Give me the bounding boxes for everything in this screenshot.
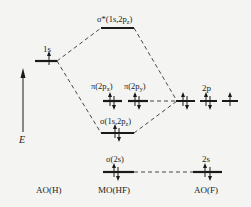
h1s-to-sigma (57, 61, 101, 133)
energy-axis-label: E (18, 134, 25, 145)
level-pi: π(2px) π(2py) (91, 81, 148, 110)
sigma-star-label: σ*(1s,2pz) (97, 14, 133, 25)
correlation-lines (57, 28, 193, 172)
column-label-ao-f: AO(F) (194, 185, 218, 195)
f-2p-label: 2p (202, 83, 212, 93)
f-2s-label: 2s (202, 154, 211, 164)
energy-axis: E (18, 68, 26, 145)
level-sigma-star: σ*(1s,2pz) (97, 14, 134, 28)
column-label-ao-h: AO(H) (36, 185, 62, 195)
pi-x-label: π(2px) (91, 81, 113, 92)
sigma-2s-label: σ(2s) (106, 154, 124, 164)
mo-diagram: E 1s σ*(1s,2pz) π(2px) π(2py) σ( (0, 0, 251, 207)
pi-y-label: π(2py) (124, 81, 146, 92)
level-f-2s: 2s (193, 154, 222, 181)
level-sigma-2s: σ(2s) (103, 154, 134, 181)
axis-arrow-icon (21, 68, 26, 78)
sigma-1s-2pz-label: σ(1s,2pz) (100, 116, 131, 127)
level-f-2p: 2p (176, 83, 238, 110)
h-1s-label: 1s (43, 44, 52, 54)
level-sigma-1s-2pz: σ(1s,2pz) (100, 116, 134, 142)
h1s-to-sigma-star (57, 28, 101, 61)
level-h-1s: 1s (35, 44, 57, 65)
column-label-mo-hf: MO(HF) (98, 185, 130, 195)
